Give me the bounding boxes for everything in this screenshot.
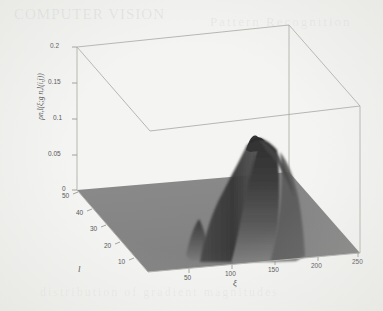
y-tick-label-40: 40	[76, 209, 83, 216]
z-tick-label-0.2: 0.2	[50, 42, 59, 49]
y-tick-label-50: 50	[62, 192, 69, 199]
z-tick-label-0.05: 0.05	[48, 150, 61, 157]
z-axis-title-text: ρn,l(ξ;g n,l(i,j))	[36, 73, 45, 119]
x-tick-label-150: 150	[268, 266, 279, 273]
x-tick-label-200: 200	[311, 262, 322, 269]
x-tick-label-50: 50	[184, 274, 191, 281]
y-axis-title: l	[78, 264, 81, 274]
z-axis-ticks	[72, 47, 77, 190]
y-tick-label-30: 30	[90, 225, 97, 232]
x-tick-label-100: 100	[225, 270, 236, 277]
x-axis-title: ξ	[233, 278, 237, 288]
y-tick-label-20: 20	[104, 242, 111, 249]
y-tick-label-10: 10	[118, 258, 125, 265]
z-tick-label-0: 0	[62, 185, 66, 192]
surface-plot-figure: COMPUTER VISION Pattern Recognition dist…	[0, 0, 383, 311]
z-tick-label-0.15: 0.15	[48, 78, 61, 85]
z-axis-title: ρn,l(ξ;g n,l(i,j))	[36, 37, 45, 157]
x-tick-label-250: 250	[352, 258, 363, 265]
z-tick-label-0.1: 0.1	[53, 114, 62, 121]
